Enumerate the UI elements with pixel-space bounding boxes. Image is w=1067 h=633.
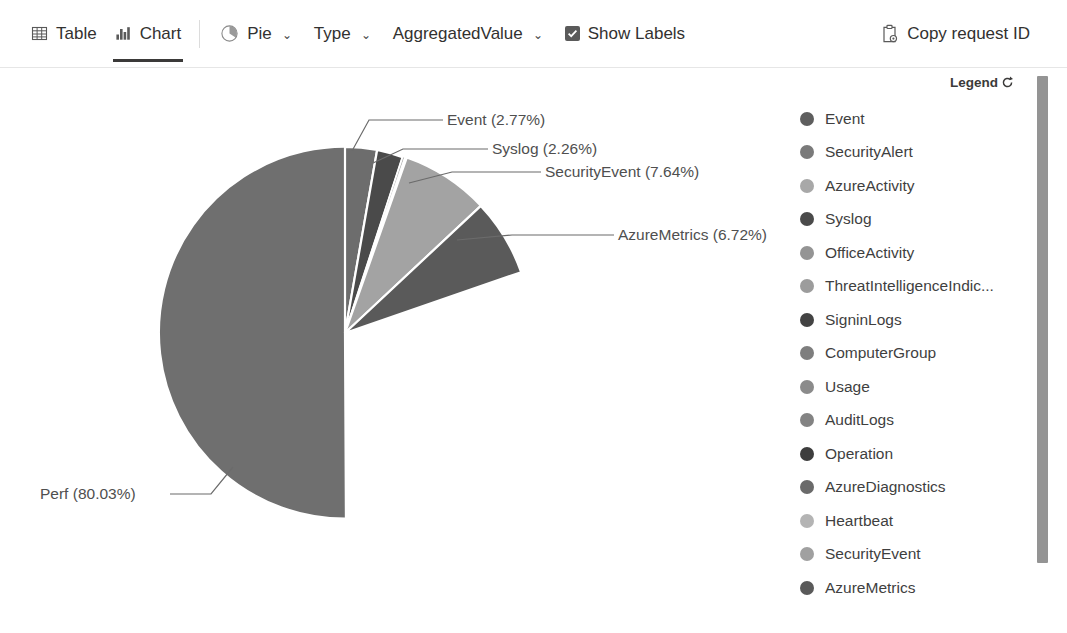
circular-arrow-icon[interactable] (1001, 76, 1014, 89)
legend-swatch-icon (800, 313, 814, 327)
bar-chart-icon (115, 25, 132, 42)
legend-item-usage[interactable]: Usage (800, 370, 1038, 404)
legend-item-heartbeat[interactable]: Heartbeat (800, 504, 1038, 538)
legend-item-label: Heartbeat (825, 512, 893, 530)
chart-type-label: Pie (247, 24, 272, 44)
legend-item-label: AzureMetrics (825, 579, 915, 597)
legend-item-label: Usage (825, 378, 870, 396)
legend-item-label: Syslog (825, 210, 872, 228)
legend-swatch-icon (800, 212, 814, 226)
legend-item-label: AuditLogs (825, 411, 894, 429)
value-dropdown-label: AggregatedValue (393, 24, 523, 44)
legend-item-event[interactable]: Event (800, 102, 1038, 136)
legend-item-signinlogs[interactable]: SigninLogs (800, 303, 1038, 337)
legend-title: Legend (950, 75, 998, 90)
legend-swatch-icon (800, 380, 814, 394)
legend-swatch-icon (800, 547, 814, 561)
value-dropdown[interactable]: AggregatedValue ⌄ (382, 10, 554, 57)
legend-swatch-icon (800, 279, 814, 293)
pie-slice-perf[interactable] (108, 96, 578, 560)
legend-item-label: SigninLogs (825, 311, 902, 329)
legend-item-label: ThreatIntelligenceIndic... (825, 277, 994, 295)
toolbar-separator (199, 20, 200, 48)
callout-securityevent: SecurityEvent (7.64%) (545, 163, 699, 180)
chart-legend: Legend Event SecurityAlert AzureActivity (793, 68, 1038, 633)
legend-swatch-icon (800, 447, 814, 461)
legend-items: Event SecurityAlert AzureActivity Syslog… (800, 102, 1038, 605)
chart-type-dropdown[interactable]: Pie ⌄ (209, 10, 303, 57)
legend-item-label: SecurityAlert (825, 143, 913, 161)
show-labels-checkbox[interactable]: Show Labels (554, 10, 696, 57)
chart-toolbar: Table Chart Pie (0, 0, 1067, 68)
pie-icon (220, 24, 239, 43)
checkbox-checked-icon[interactable] (565, 26, 580, 41)
legend-swatch-icon (800, 413, 814, 427)
pie-chart[interactable]: Event (2.77%) Syslog (2.26%) SecurityEve… (0, 68, 790, 633)
callout-syslog: Syslog (2.26%) (492, 140, 597, 157)
legend-item-label: SecurityEvent (825, 545, 921, 563)
legend-item-auditlogs[interactable]: AuditLogs (800, 404, 1038, 438)
tab-chart[interactable]: Chart (106, 10, 191, 57)
tab-chart-label: Chart (140, 24, 182, 44)
legend-item-label: AzureActivity (825, 177, 915, 195)
copy-request-id-button[interactable]: Copy request ID (869, 10, 1041, 57)
clipboard-gear-icon (880, 24, 899, 44)
legend-scrollbar-thumb[interactable] (1037, 76, 1048, 563)
chevron-down-icon: ⌄ (361, 29, 371, 41)
legend-swatch-icon (800, 480, 814, 494)
legend-item-azureactivity[interactable]: AzureActivity (800, 169, 1038, 203)
callout-azuremetrics: AzureMetrics (6.72%) (618, 226, 767, 243)
type-dropdown[interactable]: Type ⌄ (303, 10, 382, 57)
legend-item-officeactivity[interactable]: OfficeActivity (800, 236, 1038, 270)
legend-item-label: Event (825, 110, 865, 128)
legend-swatch-icon (800, 145, 814, 159)
callout-perf: Perf (80.03%) (40, 485, 136, 502)
pie-slices[interactable] (108, 96, 578, 560)
legend-item-azuremetrics[interactable]: AzureMetrics (800, 571, 1038, 605)
legend-swatch-icon (800, 346, 814, 360)
callout-event: Event (2.77%) (447, 111, 545, 128)
chart-area: Event (2.77%) Syslog (2.26%) SecurityEve… (0, 68, 1067, 633)
tab-table-label: Table (56, 24, 97, 44)
legend-header[interactable]: Legend (950, 75, 1014, 90)
legend-item-computergroup[interactable]: ComputerGroup (800, 337, 1038, 371)
legend-item-securityalert[interactable]: SecurityAlert (800, 136, 1038, 170)
tab-table[interactable]: Table (22, 10, 106, 57)
legend-item-threatintelligenceindicator[interactable]: ThreatIntelligenceIndic... (800, 270, 1038, 304)
legend-item-syslog[interactable]: Syslog (800, 203, 1038, 237)
legend-swatch-icon (800, 179, 814, 193)
legend-item-securityevent[interactable]: SecurityEvent (800, 538, 1038, 572)
legend-item-operation[interactable]: Operation (800, 437, 1038, 471)
legend-item-label: Operation (825, 445, 893, 463)
table-grid-icon (31, 25, 48, 42)
legend-item-label: AzureDiagnostics (825, 478, 946, 496)
legend-item-label: ComputerGroup (825, 344, 936, 362)
copy-request-id-label: Copy request ID (907, 24, 1030, 44)
chevron-down-icon: ⌄ (282, 29, 292, 41)
type-dropdown-label: Type (314, 24, 351, 44)
legend-swatch-icon (800, 514, 814, 528)
legend-item-label: OfficeActivity (825, 244, 914, 262)
show-labels-label: Show Labels (588, 24, 685, 44)
legend-swatch-icon (800, 246, 814, 260)
legend-item-azurediagnostics[interactable]: AzureDiagnostics (800, 471, 1038, 505)
chevron-down-icon: ⌄ (533, 29, 543, 41)
pie-chart-svg[interactable]: Event (2.77%) Syslog (2.26%) SecurityEve… (0, 68, 790, 633)
legend-swatch-icon (800, 581, 814, 595)
leader-event (352, 120, 443, 151)
legend-swatch-icon (800, 112, 814, 126)
